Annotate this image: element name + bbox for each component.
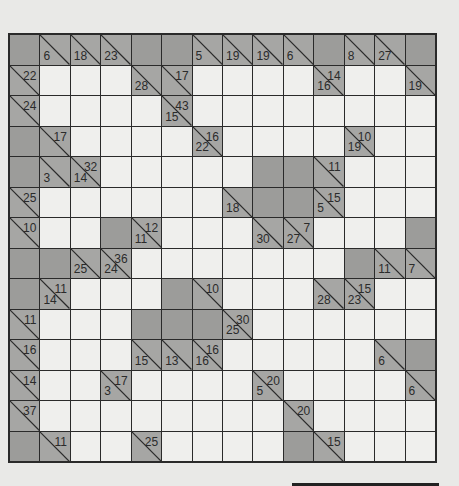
entry-cell[interactable] bbox=[406, 157, 435, 187]
entry-cell[interactable] bbox=[40, 310, 69, 340]
entry-cell[interactable] bbox=[253, 401, 282, 431]
entry-cell[interactable] bbox=[132, 371, 161, 401]
entry-cell[interactable] bbox=[101, 188, 130, 218]
entry-cell[interactable] bbox=[314, 96, 343, 126]
entry-cell[interactable] bbox=[253, 66, 282, 96]
entry-cell[interactable] bbox=[193, 249, 222, 279]
entry-cell[interactable] bbox=[40, 340, 69, 370]
entry-cell[interactable] bbox=[223, 340, 252, 370]
entry-cell[interactable] bbox=[193, 218, 222, 248]
entry-cell[interactable] bbox=[71, 127, 100, 157]
entry-cell[interactable] bbox=[71, 371, 100, 401]
entry-cell[interactable] bbox=[223, 371, 252, 401]
entry-cell[interactable] bbox=[345, 432, 374, 462]
entry-cell[interactable] bbox=[253, 96, 282, 126]
entry-cell[interactable] bbox=[193, 432, 222, 462]
entry-cell[interactable] bbox=[71, 218, 100, 248]
entry-cell[interactable] bbox=[253, 127, 282, 157]
entry-cell[interactable] bbox=[71, 432, 100, 462]
entry-cell[interactable] bbox=[101, 340, 130, 370]
entry-cell[interactable] bbox=[375, 218, 404, 248]
entry-cell[interactable] bbox=[375, 432, 404, 462]
entry-cell[interactable] bbox=[345, 371, 374, 401]
entry-cell[interactable] bbox=[284, 279, 313, 309]
entry-cell[interactable] bbox=[71, 188, 100, 218]
entry-cell[interactable] bbox=[345, 340, 374, 370]
entry-cell[interactable] bbox=[284, 310, 313, 340]
entry-cell[interactable] bbox=[40, 66, 69, 96]
entry-cell[interactable] bbox=[223, 218, 252, 248]
entry-cell[interactable] bbox=[132, 401, 161, 431]
entry-cell[interactable] bbox=[406, 432, 435, 462]
entry-cell[interactable] bbox=[223, 66, 252, 96]
entry-cell[interactable] bbox=[193, 96, 222, 126]
entry-cell[interactable] bbox=[132, 249, 161, 279]
entry-cell[interactable] bbox=[101, 127, 130, 157]
entry-cell[interactable] bbox=[406, 96, 435, 126]
entry-cell[interactable] bbox=[406, 279, 435, 309]
entry-cell[interactable] bbox=[406, 127, 435, 157]
entry-cell[interactable] bbox=[284, 371, 313, 401]
entry-cell[interactable] bbox=[375, 188, 404, 218]
entry-cell[interactable] bbox=[314, 310, 343, 340]
entry-cell[interactable] bbox=[40, 188, 69, 218]
entry-cell[interactable] bbox=[253, 432, 282, 462]
entry-cell[interactable] bbox=[345, 218, 374, 248]
entry-cell[interactable] bbox=[162, 188, 191, 218]
entry-cell[interactable] bbox=[375, 401, 404, 431]
entry-cell[interactable] bbox=[223, 127, 252, 157]
entry-cell[interactable] bbox=[314, 371, 343, 401]
entry-cell[interactable] bbox=[40, 218, 69, 248]
entry-cell[interactable] bbox=[345, 96, 374, 126]
entry-cell[interactable] bbox=[223, 249, 252, 279]
entry-cell[interactable] bbox=[132, 96, 161, 126]
entry-cell[interactable] bbox=[314, 127, 343, 157]
entry-cell[interactable] bbox=[406, 310, 435, 340]
entry-cell[interactable] bbox=[375, 371, 404, 401]
entry-cell[interactable] bbox=[40, 96, 69, 126]
entry-cell[interactable] bbox=[223, 157, 252, 187]
entry-cell[interactable] bbox=[132, 188, 161, 218]
entry-cell[interactable] bbox=[314, 218, 343, 248]
entry-cell[interactable] bbox=[406, 188, 435, 218]
entry-cell[interactable] bbox=[223, 432, 252, 462]
entry-cell[interactable] bbox=[375, 157, 404, 187]
entry-cell[interactable] bbox=[162, 249, 191, 279]
entry-cell[interactable] bbox=[101, 310, 130, 340]
entry-cell[interactable] bbox=[345, 188, 374, 218]
entry-cell[interactable] bbox=[253, 249, 282, 279]
entry-cell[interactable] bbox=[71, 340, 100, 370]
entry-cell[interactable] bbox=[71, 279, 100, 309]
entry-cell[interactable] bbox=[284, 249, 313, 279]
entry-cell[interactable] bbox=[132, 157, 161, 187]
entry-cell[interactable] bbox=[193, 66, 222, 96]
entry-cell[interactable] bbox=[162, 432, 191, 462]
entry-cell[interactable] bbox=[193, 401, 222, 431]
entry-cell[interactable] bbox=[284, 66, 313, 96]
entry-cell[interactable] bbox=[132, 127, 161, 157]
entry-cell[interactable] bbox=[345, 66, 374, 96]
entry-cell[interactable] bbox=[375, 96, 404, 126]
entry-cell[interactable] bbox=[375, 279, 404, 309]
entry-cell[interactable] bbox=[223, 279, 252, 309]
entry-cell[interactable] bbox=[375, 310, 404, 340]
entry-cell[interactable] bbox=[284, 127, 313, 157]
entry-cell[interactable] bbox=[71, 310, 100, 340]
entry-cell[interactable] bbox=[101, 66, 130, 96]
entry-cell[interactable] bbox=[314, 401, 343, 431]
entry-cell[interactable] bbox=[284, 96, 313, 126]
entry-cell[interactable] bbox=[253, 310, 282, 340]
entry-cell[interactable] bbox=[40, 371, 69, 401]
entry-cell[interactable] bbox=[193, 157, 222, 187]
entry-cell[interactable] bbox=[345, 401, 374, 431]
entry-cell[interactable] bbox=[162, 157, 191, 187]
entry-cell[interactable] bbox=[345, 310, 374, 340]
entry-cell[interactable] bbox=[101, 401, 130, 431]
entry-cell[interactable] bbox=[71, 96, 100, 126]
entry-cell[interactable] bbox=[284, 340, 313, 370]
entry-cell[interactable] bbox=[132, 279, 161, 309]
entry-cell[interactable] bbox=[101, 279, 130, 309]
entry-cell[interactable] bbox=[101, 157, 130, 187]
entry-cell[interactable] bbox=[162, 371, 191, 401]
entry-cell[interactable] bbox=[101, 96, 130, 126]
